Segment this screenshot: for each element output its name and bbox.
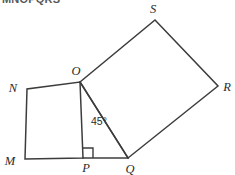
vertex-label-s: S [150, 2, 157, 16]
vertex-label-r: R [222, 80, 231, 94]
angle-label-45-degrees: 45° [91, 115, 107, 127]
shape-square-mnop [25, 82, 83, 159]
vertex-label-o: O [71, 64, 80, 78]
vertex-label-q: Q [125, 162, 134, 175]
vertex-label-p: P [81, 161, 90, 175]
vertex-label-n: N [8, 81, 18, 95]
right-angle-marker-at-p [83, 148, 93, 158]
vertex-label-m: M [4, 154, 16, 168]
shape-square-osrq [80, 20, 218, 158]
geometry-diagram-svg: M N O P Q R S 45° [0, 0, 235, 175]
geometry-figure: MNOPQRS M N O P Q R S 45° [0, 0, 235, 175]
